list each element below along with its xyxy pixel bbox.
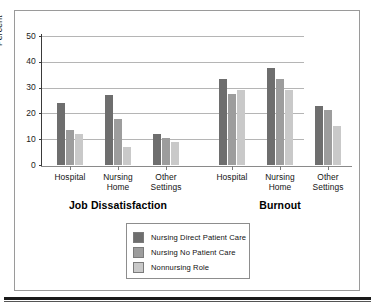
x-tick-mark [118,166,119,170]
bar [333,126,341,165]
bar [162,138,170,165]
legend-swatch [133,247,144,258]
x-axis-category-label: Other Settings [304,172,352,192]
x-axis-category-label: Other Settings [142,172,190,192]
y-tick-label: 50 [14,32,36,41]
bar [105,95,113,165]
y-tick-label: 40 [14,57,36,66]
bar [285,90,293,165]
page-divider-rule [4,297,371,300]
legend-item: Nursing Direct Patient Care [133,231,246,243]
bar [324,110,332,165]
x-tick-mark [328,166,329,170]
panel-title: Job Dissatisfaction [48,199,188,211]
legend-item: Nursing No Patient Care [133,246,236,258]
y-axis-title: Percent [0,15,4,46]
x-axis-category-label: Nursing Home [256,172,304,192]
y-tick-label: 10 [14,135,36,144]
bar [123,147,131,165]
bar [171,142,179,165]
x-tick-mark [280,166,281,170]
x-axis-category-label: Nursing Home [94,172,142,192]
x-tick-mark [70,166,71,170]
legend-item: Nonnursing Role [133,261,209,273]
bar [237,90,245,165]
y-tick-label: 30 [14,83,36,92]
y-tick-mark [39,165,42,166]
panel-title: Burnout [210,199,350,211]
bar [57,103,65,165]
plot-area [42,36,352,165]
legend-label: Nursing Direct Patient Care [151,233,246,242]
legend-swatch [133,232,144,243]
bar [114,119,122,165]
bar [66,130,74,165]
x-axis-category-label: Hospital [208,172,256,182]
legend-label: Nonnursing Role [151,263,209,272]
figure-container: Percent 01020304050 HospitalNursing Home… [0,0,375,308]
bar [153,134,161,165]
x-tick-mark [232,166,233,170]
legend: Nursing Direct Patient CareNursing No Pa… [126,223,250,279]
bar [315,106,323,165]
bar [75,134,83,165]
legend-label: Nursing No Patient Care [151,248,236,257]
y-tick-label: 0 [14,161,36,170]
legend-swatch [133,262,144,273]
page-divider-rule-thin [4,301,371,302]
y-tick-label: 20 [14,109,36,118]
x-axis-category-label: Hospital [46,172,94,182]
bar [228,94,236,165]
bar [267,68,275,165]
x-axis-line [41,166,352,167]
x-tick-mark [166,166,167,170]
bar [219,79,227,165]
bar [276,79,284,165]
